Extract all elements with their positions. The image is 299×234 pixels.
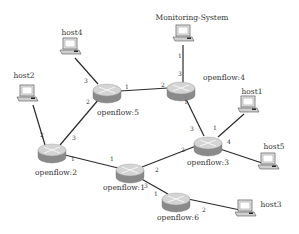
router-label: openflow:2 (35, 168, 77, 177)
computer-icon (60, 38, 81, 54)
routers-layer: openflow:5openflow:4openflow:2openflow:1… (35, 73, 245, 222)
port-number: 3 (72, 134, 76, 141)
port-number: 3 (178, 70, 182, 77)
host-label: host3 (261, 200, 282, 209)
port-number: 1 (178, 52, 182, 59)
router-icon (93, 84, 121, 103)
router-icon (38, 144, 66, 163)
port-number: 1 (213, 124, 217, 131)
computer-icon (17, 85, 38, 101)
port-number: 3 (144, 182, 148, 189)
link-line (188, 199, 240, 210)
router-label: openflow:4 (203, 73, 245, 82)
host-host2[interactable]: host2 (14, 71, 38, 101)
topology-svg: openflow:5openflow:4openflow:2openflow:1… (0, 0, 299, 234)
port-number: 1 (125, 83, 129, 90)
computer-icon (258, 153, 279, 169)
link-line (33, 105, 45, 145)
port-number: 1 (110, 155, 114, 162)
port-number: 2 (181, 146, 185, 153)
router-openflow5[interactable]: openflow:5 (93, 84, 139, 117)
router-openflow6[interactable]: openflow:6 (157, 193, 199, 222)
router-icon (194, 137, 222, 156)
port-number: 3 (84, 77, 88, 84)
router-icon (116, 164, 144, 183)
link-line (218, 114, 244, 137)
router-label: openflow:5 (97, 108, 139, 117)
port-number: 4 (227, 138, 231, 145)
port-number: 3 (190, 125, 194, 132)
host-label: host4 (62, 28, 83, 37)
host-monitoring[interactable]: Monitoring-System (156, 13, 229, 41)
port-number: 2 (86, 98, 90, 105)
router-icon (167, 82, 195, 101)
port-number: 2 (161, 81, 165, 88)
host-label: Monitoring-System (156, 13, 229, 22)
router-openflow1[interactable]: openflow:1 (103, 164, 145, 192)
port-number: 1 (184, 98, 188, 105)
router-label: openflow:1 (103, 183, 145, 192)
host-host4[interactable]: host4 (60, 28, 83, 54)
port-number: 2 (202, 206, 206, 213)
host-label: host1 (242, 87, 263, 96)
computer-icon (235, 200, 256, 216)
router-openflow4[interactable]: openflow:4 (167, 73, 245, 101)
router-icon (162, 193, 190, 212)
port-number: 2 (155, 166, 159, 173)
host-label: host2 (14, 71, 35, 80)
host-host1[interactable]: host1 (238, 87, 262, 112)
network-topology-diagram: openflow:5openflow:4openflow:2openflow:1… (0, 0, 299, 234)
port-number: 1 (71, 155, 75, 162)
port-number: 1 (154, 190, 158, 197)
router-label: openflow:3 (187, 158, 229, 167)
port-number: 2 (40, 131, 44, 138)
router-openflow3[interactable]: openflow:3 (187, 137, 229, 167)
host-host5[interactable]: host5 (258, 142, 285, 169)
computer-icon (238, 96, 259, 112)
host-label: host5 (264, 142, 285, 151)
computer-icon (173, 25, 194, 41)
host-host3[interactable]: host3 (235, 200, 282, 216)
link-line (60, 99, 99, 145)
router-label: openflow:6 (157, 213, 199, 222)
